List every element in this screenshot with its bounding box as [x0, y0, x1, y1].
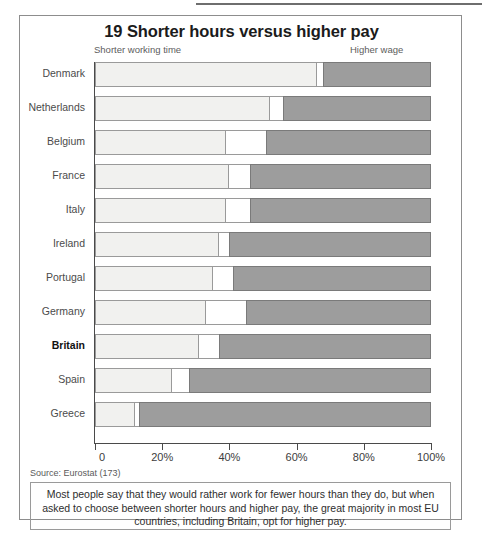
- x-tick-mark: [297, 443, 298, 450]
- x-tick-label: 100%: [417, 451, 445, 463]
- x-tick-mark: [229, 443, 230, 450]
- bar-segment-neither: [226, 198, 250, 223]
- x-tick-mark: [364, 443, 365, 450]
- bar-segment-shorter-hours: [95, 232, 219, 257]
- stacked-bar: [95, 402, 431, 427]
- bar-segment-higher-pay: [283, 96, 431, 121]
- bar-segment-higher-pay: [229, 232, 431, 257]
- bar-segment-shorter-hours: [95, 300, 206, 325]
- axis-end-label-right: Higher wage: [350, 44, 403, 55]
- bar-segment-higher-pay: [250, 198, 431, 223]
- bar-rows: DenmarkNetherlandsBelgiumFranceItalyIrel…: [20, 60, 463, 434]
- stacked-bar: [95, 130, 431, 155]
- chart-row: Belgium: [20, 128, 463, 162]
- bar-segment-shorter-hours: [95, 266, 213, 291]
- x-tick-label: 80%: [353, 451, 375, 463]
- bar-segment-shorter-hours: [95, 402, 135, 427]
- category-label-france: France: [0, 169, 85, 181]
- bar-segment-higher-pay: [323, 62, 431, 87]
- bar-segment-neither: [229, 164, 249, 189]
- stacked-bar: [95, 96, 431, 121]
- category-label-britain: Britain: [0, 339, 85, 351]
- bar-segment-neither: [199, 334, 219, 359]
- axis-end-label-left: Shorter working time: [94, 44, 181, 55]
- category-label-italy: Italy: [0, 203, 85, 215]
- x-tick-label: 0: [99, 451, 105, 463]
- bar-segment-neither: [206, 300, 246, 325]
- category-label-netherlands: Netherlands: [0, 101, 85, 113]
- stacked-bar: [95, 368, 431, 393]
- plot-area: DenmarkNetherlandsBelgiumFranceItalyIrel…: [20, 60, 463, 450]
- chart-row: Greece: [20, 400, 463, 434]
- bar-segment-higher-pay: [233, 266, 431, 291]
- stacked-bar: [95, 266, 431, 291]
- stacked-bar: [95, 300, 431, 325]
- figure-frame: 19 Shorter hours versus higher pay Short…: [19, 15, 462, 520]
- chart-row: Italy: [20, 196, 463, 230]
- bar-segment-higher-pay: [246, 300, 431, 325]
- bar-segment-neither: [270, 96, 283, 121]
- bar-segment-higher-pay: [266, 130, 431, 155]
- chart-row: Spain: [20, 366, 463, 400]
- bar-segment-shorter-hours: [95, 164, 229, 189]
- chart-row: Britain: [20, 332, 463, 366]
- bar-segment-shorter-hours: [95, 368, 172, 393]
- chart-row: Netherlands: [20, 94, 463, 128]
- x-tick-mark: [162, 443, 163, 450]
- stacked-bar: [95, 62, 431, 87]
- bar-segment-shorter-hours: [95, 130, 226, 155]
- bar-segment-higher-pay: [139, 402, 431, 427]
- category-label-belgium: Belgium: [0, 135, 85, 147]
- stacked-bar: [95, 334, 431, 359]
- bar-segment-higher-pay: [250, 164, 431, 189]
- bar-segment-shorter-hours: [95, 334, 199, 359]
- source-note: Source: Eurostat (173): [30, 468, 121, 478]
- chart-row: Ireland: [20, 230, 463, 264]
- bar-segment-neither: [226, 130, 266, 155]
- chart-title: 19 Shorter hours versus higher pay: [20, 22, 463, 41]
- bar-segment-neither: [219, 232, 229, 257]
- bar-segment-neither: [213, 266, 233, 291]
- chart-row: France: [20, 162, 463, 196]
- stacked-bar: [95, 164, 431, 189]
- category-label-germany: Germany: [0, 305, 85, 317]
- bar-segment-shorter-hours: [95, 96, 270, 121]
- category-label-portugal: Portugal: [0, 271, 85, 283]
- category-label-greece: Greece: [0, 407, 85, 419]
- category-label-denmark: Denmark: [0, 67, 85, 79]
- caption-box: Most people say that they would rather w…: [30, 482, 451, 530]
- page-top-rule: [196, 3, 482, 5]
- chart-row: Portugal: [20, 264, 463, 298]
- x-tick-mark: [95, 443, 96, 450]
- x-tick-label: 40%: [218, 451, 240, 463]
- bar-segment-higher-pay: [219, 334, 431, 359]
- chart-row: Denmark: [20, 60, 463, 94]
- bar-segment-higher-pay: [189, 368, 431, 393]
- stacked-bar: [95, 198, 431, 223]
- stacked-bar: [95, 232, 431, 257]
- x-tick-mark: [431, 443, 432, 450]
- category-label-spain: Spain: [0, 373, 85, 385]
- category-label-ireland: Ireland: [0, 237, 85, 249]
- chart-row: Germany: [20, 298, 463, 332]
- x-tick-label: 20%: [151, 451, 173, 463]
- x-tick-label: 60%: [286, 451, 308, 463]
- bar-segment-shorter-hours: [95, 198, 226, 223]
- bar-segment-neither: [317, 62, 324, 87]
- x-axis-ticks: 020%40%60%80%100%: [20, 443, 463, 467]
- caption-text: Most people say that they would rather w…: [42, 488, 439, 527]
- bar-segment-neither: [172, 368, 189, 393]
- bar-segment-shorter-hours: [95, 62, 317, 87]
